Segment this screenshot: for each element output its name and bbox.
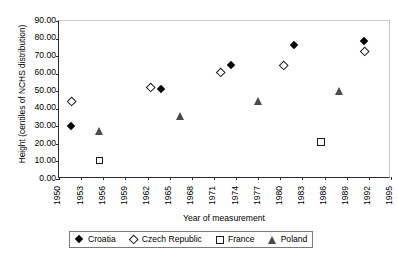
y-axis-tick-mark [56, 161, 59, 162]
y-axis-tick-mark [56, 144, 59, 145]
open-diamond-icon [359, 46, 369, 56]
chart-container: Height (centiles of NCHS distribution) 9… [0, 0, 397, 258]
open-diamond-icon [278, 60, 288, 70]
y-axis-tick-mark [56, 56, 59, 57]
y-axis-tick-mark [56, 126, 59, 127]
legend-item-label: France [228, 234, 255, 244]
y-axis-tick-mark [56, 91, 59, 92]
y-axis-tick-label: 70.00 [10, 51, 56, 60]
y-axis-tick-label: 20.00 [10, 139, 56, 148]
y-axis-tick-mark [56, 21, 59, 22]
open-diamond-icon [216, 68, 226, 78]
open-square-icon [215, 235, 224, 244]
legend-item-poland: Poland [268, 234, 308, 244]
legend-item-croatia: Croatia [75, 234, 116, 244]
y-axis-tick-mark [56, 74, 59, 75]
open-square-icon [96, 157, 104, 165]
legend-item-label: Poland [281, 234, 308, 244]
legend-item-czech-republic: Czech Republic [129, 234, 202, 244]
x-axis-tick-labels: 1950195319561959196219651968197119741977… [58, 180, 390, 214]
open-diamond-icon [67, 96, 77, 106]
filled-diamond-icon [75, 235, 84, 244]
legend-item-label: Croatia [88, 234, 116, 244]
y-axis-tick-mark [56, 109, 59, 110]
y-axis-tick-labels: 90.0080.0070.0060.0050.0040.0030.0020.00… [8, 0, 56, 258]
filled-diamond-icon [67, 122, 75, 130]
plot-area [58, 20, 390, 178]
y-axis-tick-label: 80.00 [10, 33, 56, 42]
open-diamond-icon [129, 235, 138, 244]
y-axis-tick-label: 40.00 [10, 103, 56, 112]
filled-triangle-icon [254, 97, 262, 105]
y-axis-tick-label: 90.00 [10, 16, 56, 25]
filled-triangle-icon [95, 127, 103, 135]
y-axis-tick-label: 60.00 [10, 68, 56, 77]
x-axis-tick-label: 1995 [373, 180, 397, 200]
filled-triangle-icon [268, 235, 277, 244]
open-square-icon [317, 138, 325, 146]
y-axis-tick-label: 30.00 [10, 121, 56, 130]
filled-triangle-icon [335, 87, 343, 95]
legend-item-label: Czech Republic [142, 234, 202, 244]
legend-item-france: France [215, 234, 255, 244]
filled-diamond-icon [360, 37, 368, 45]
open-diamond-icon [146, 83, 156, 93]
x-axis-title: Year of measurement [58, 213, 390, 223]
y-axis-tick-label: 50.00 [10, 86, 56, 95]
filled-diamond-icon [157, 85, 165, 93]
y-axis-tick-label: 10.00 [10, 156, 56, 165]
filled-diamond-icon [290, 41, 298, 49]
y-axis-tick-mark [56, 39, 59, 40]
filled-diamond-icon [227, 60, 235, 68]
chart-legend: CroatiaCzech RepublicFrancePoland [69, 231, 313, 248]
filled-triangle-icon [176, 112, 184, 120]
